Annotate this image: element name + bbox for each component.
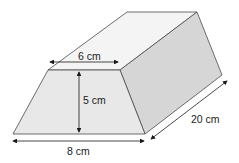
length-label: 20 cm xyxy=(191,113,220,125)
trapezoidal-prism-diagram: 6 cm 5 cm 8 cm 20 cm xyxy=(0,0,239,163)
bottom-width-label: 8 cm xyxy=(67,145,90,157)
top-width-label: 6 cm xyxy=(78,50,101,62)
height-label: 5 cm xyxy=(83,94,106,106)
